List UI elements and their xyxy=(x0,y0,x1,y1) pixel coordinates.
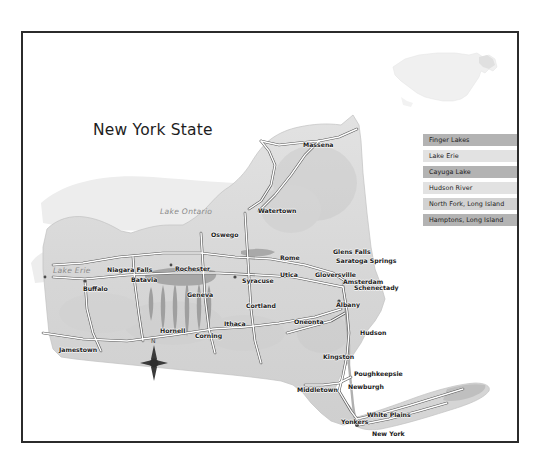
legend-item-hudson-river[interactable]: Hudson River xyxy=(423,182,519,194)
legend-item-lake-erie[interactable]: Lake Erie xyxy=(423,150,519,162)
legend-item-finger-lakes[interactable]: Finger Lakes xyxy=(423,134,519,146)
page-title: New York State xyxy=(93,121,213,139)
united-states-inset xyxy=(385,41,503,117)
map-frame: N Finger Lakes Lake Erie Cayuga Lake Hud… xyxy=(21,31,519,443)
map-legend: Finger Lakes Lake Erie Cayuga Lake Hudso… xyxy=(423,134,519,226)
compass-north-label: N xyxy=(151,337,156,344)
legend-item-hamptons-long-island[interactable]: Hamptons, Long Island xyxy=(423,214,519,226)
legend-item-north-fork-long-island[interactable]: North Fork, Long Island xyxy=(423,198,519,210)
compass-rose: N xyxy=(136,337,172,385)
legend-item-cayuga-lake[interactable]: Cayuga Lake xyxy=(423,166,519,178)
